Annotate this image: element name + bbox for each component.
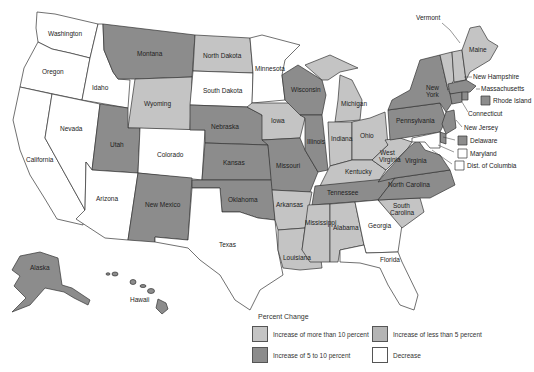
label-georgia: Georgia — [368, 222, 392, 230]
label-pennsylvania: Pennsylvania — [396, 117, 435, 125]
label-hawaii: Hawaii — [130, 296, 150, 303]
label-kentucky: Kentucky — [345, 168, 372, 176]
label-iowa: Iowa — [271, 117, 285, 124]
label-ohio: Ohio — [360, 132, 374, 139]
label-north-carolina: North Carolina — [388, 181, 430, 188]
legend-label: Decrease — [393, 352, 421, 359]
label-wisconsin: Wisconsin — [291, 86, 321, 93]
label-alabama: Alabama — [333, 224, 359, 231]
label-illinois: Illinois — [307, 138, 326, 145]
legend-swatch — [252, 326, 268, 342]
legend-item-decrease: Decrease — [372, 347, 421, 363]
label-louisiana: Louisiana — [283, 254, 311, 261]
label-alaska: Alaska — [30, 264, 50, 271]
state-rhode-island[interactable] — [462, 92, 468, 100]
legend-item-5-to-10: Increase of 5 to 10 percent — [252, 347, 350, 363]
label-delaware: Delaware — [470, 137, 498, 144]
label-west-virginia-2: Virginia — [379, 156, 401, 164]
label-maryland: Maryland — [470, 150, 497, 158]
label-arizona: Arizona — [96, 195, 118, 202]
label-new-york-2: York — [426, 91, 440, 98]
label-wyoming: Wyoming — [144, 100, 171, 108]
label-california: California — [26, 156, 54, 163]
label-connecticut: Connecticut — [468, 110, 503, 117]
legend-item-more-than-10: Increase of more than 10 percent — [252, 326, 369, 342]
label-new-york-1: New — [426, 84, 439, 91]
label-texas: Texas — [219, 241, 237, 248]
state-hawaii[interactable] — [106, 272, 168, 314]
legend-swatch — [252, 347, 268, 363]
label-north-dakota: North Dakota — [203, 52, 242, 59]
label-new-mexico: New Mexico — [145, 201, 181, 208]
state-indiana[interactable] — [328, 122, 352, 166]
state-florida[interactable] — [340, 245, 418, 310]
label-kansas: Kansas — [223, 159, 245, 166]
label-nevada: Nevada — [60, 125, 83, 132]
legend-swatch — [372, 347, 388, 363]
label-colorado: Colorado — [157, 151, 184, 158]
label-indiana: Indiana — [331, 135, 353, 142]
swatch-rhode-island — [481, 96, 490, 105]
swatch-delaware — [458, 136, 467, 145]
label-massachusetts: Massachusetts — [481, 85, 525, 92]
label-west-virginia-1: West — [380, 149, 395, 156]
state-connecticut[interactable] — [450, 92, 462, 104]
label-florida: Florida — [380, 256, 400, 263]
label-south-carolina-1: South — [393, 202, 410, 209]
legend-swatch — [372, 326, 388, 342]
leader-new-jersey — [456, 120, 462, 127]
label-oregon: Oregon — [42, 68, 64, 76]
label-arkansas: Arkansas — [276, 201, 304, 208]
leader-vermont — [442, 23, 460, 43]
label-oklahoma: Oklahoma — [228, 196, 258, 203]
state-maine[interactable] — [462, 26, 498, 80]
label-new-jersey: New Jersey — [464, 124, 499, 132]
legend-label: Increase of more than 10 percent — [273, 331, 369, 338]
legend-item-less-than-5: Increase of less than 5 percent — [372, 326, 482, 342]
label-new-hampshire: New Hampshire — [473, 73, 520, 81]
swatch-maryland — [458, 149, 467, 158]
swatch-dc — [455, 161, 464, 170]
label-mississippi: Mississippi — [305, 219, 336, 227]
label-utah: Utah — [110, 141, 124, 148]
label-south-dakota: South Dakota — [203, 87, 243, 94]
state-delaware[interactable] — [440, 132, 446, 144]
label-nebraska: Nebraska — [211, 123, 239, 130]
label-missouri: Missouri — [276, 162, 300, 169]
label-minnesota: Minnesota — [255, 65, 285, 72]
label-idaho: Idaho — [92, 84, 109, 91]
label-washington: Washington — [48, 30, 82, 38]
label-montana: Montana — [137, 50, 163, 57]
label-rhode-island: Rhode Island — [493, 97, 532, 104]
label-virginia: Virginia — [405, 157, 427, 165]
label-michigan: Michigan — [341, 100, 367, 108]
state-alaska[interactable] — [12, 252, 90, 312]
label-maine: Maine — [469, 46, 487, 53]
label-dc: Dist. of Columbia — [467, 162, 517, 169]
leader-maryland — [438, 145, 454, 152]
label-south-carolina-2: Carolina — [390, 209, 415, 216]
label-tennessee: Tennessee — [327, 189, 359, 196]
legend-label: Increase of less than 5 percent — [393, 331, 482, 338]
legend-label: Increase of 5 to 10 percent — [273, 352, 350, 359]
label-vermont: Vermont — [416, 14, 440, 21]
legend-title: Percent Change — [258, 313, 309, 320]
